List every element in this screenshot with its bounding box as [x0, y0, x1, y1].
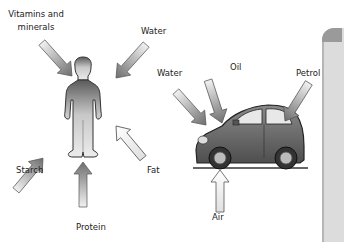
label-vitamins-line2: minerals [4, 21, 68, 34]
label-water-human: Water [141, 25, 166, 38]
arrow-protein-icon [74, 162, 92, 207]
label-oil: Oil [230, 61, 241, 74]
arrow-water-human-icon [109, 39, 152, 84]
label-protein: Protein [76, 221, 106, 234]
label-vitamins: Vitamins and minerals [4, 8, 68, 34]
label-air: Air [212, 211, 224, 224]
arrow-vitamins-icon [35, 37, 78, 82]
label-vitamins-line1: Vitamins and [4, 8, 68, 21]
label-petrol: Petrol [296, 67, 320, 80]
arrow-air-icon [211, 170, 229, 212]
arrow-water-car-icon [169, 86, 212, 131]
side-panel [322, 28, 344, 242]
label-starch: Starch [16, 164, 43, 177]
side-panel-header [322, 28, 342, 42]
arrow-fat-icon [109, 120, 150, 164]
label-fat: Fat [147, 164, 160, 177]
label-water-car: Water [157, 67, 182, 80]
